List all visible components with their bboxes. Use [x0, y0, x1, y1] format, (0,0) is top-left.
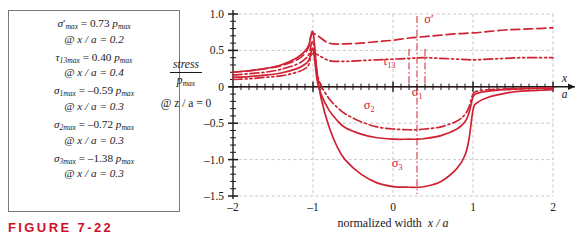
x-axis-tick-label: –2 — [226, 201, 239, 213]
svg-text:σ′: σ′ — [424, 12, 434, 26]
svg-text:σ2: σ2 — [364, 98, 375, 114]
y-axis-tick-label: 0 — [218, 81, 224, 93]
curve-label-σ_3: σ3 — [392, 156, 403, 172]
y-axis-tick-label: 1.0 — [210, 8, 225, 20]
x-axis-tick-label: –1 — [306, 201, 319, 213]
y-axis-tick-label: 0.5 — [210, 44, 225, 56]
y-axis-tick-label: –0.5 — [203, 117, 224, 129]
svg-text:τ13: τ13 — [382, 54, 395, 70]
svg-text:σ3: σ3 — [392, 156, 403, 172]
x-axis-arrow-icon — [568, 84, 575, 90]
curve-label-σ_2: σ2 — [364, 98, 375, 114]
stress-distribution-plot: –1.5–1.0–0.500.51.0–2–1012σ′τ13σ1σ2σ3 — [0, 0, 585, 242]
x-axis-tick-label: 2 — [550, 201, 556, 213]
x-axis-tick-label: 0 — [390, 201, 396, 213]
figure-root: σ′max = 0.73 pmax @ x / a = 0.2 τ13max =… — [0, 0, 585, 242]
y-axis-tick-label: –1.0 — [203, 154, 224, 166]
curve-label-σ′: σ′ — [424, 12, 434, 26]
x-axis-tick-label: 1 — [470, 201, 476, 213]
curve-label-τ_13: τ13 — [382, 54, 395, 70]
y-axis-tick-label: –1.5 — [203, 190, 224, 202]
